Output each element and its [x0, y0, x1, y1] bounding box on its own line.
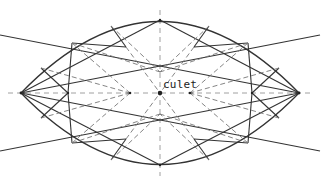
culet-point: [158, 91, 163, 96]
marquise-diagram: culet: [0, 0, 325, 185]
diagram-svg: [0, 0, 325, 185]
culet-label: culet: [163, 78, 197, 91]
